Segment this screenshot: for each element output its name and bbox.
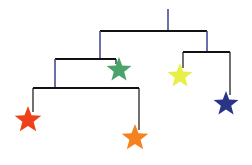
mobile-diagram [0,0,252,165]
yellow-star-icon [168,63,193,87]
red-star-icon [15,106,42,131]
navy-star-icon [214,91,239,115]
orange-star-icon [122,124,149,149]
green-star-icon [107,57,132,81]
